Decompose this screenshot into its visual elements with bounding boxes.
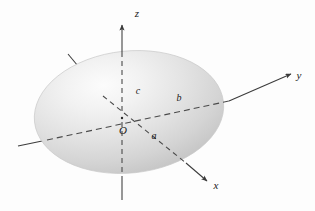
semi-axis-label-c: c bbox=[136, 85, 141, 96]
y-axis-ray bbox=[229, 74, 291, 101]
figure-canvas: z y x O a b c bbox=[0, 0, 315, 211]
x-axis-label: x bbox=[213, 179, 219, 191]
origin-point bbox=[121, 117, 123, 119]
origin-label: O bbox=[119, 124, 127, 136]
semi-axis-label-a: a bbox=[152, 130, 157, 141]
x-axis-ray bbox=[186, 163, 207, 181]
y-axis-label: y bbox=[296, 69, 302, 81]
ellipsoid-surface bbox=[28, 41, 230, 182]
semi-axis-label-b: b bbox=[177, 92, 182, 103]
ellipsoid-figure: z y x O a b c bbox=[0, 0, 315, 211]
ellipsoid-body bbox=[28, 41, 230, 182]
z-axis-label: z bbox=[134, 7, 140, 19]
